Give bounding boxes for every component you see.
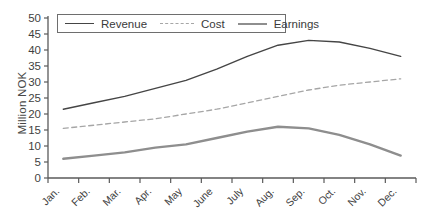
legend-label-revenue: Revenue [101, 18, 147, 30]
x-axis-month-label: Feb. [69, 185, 92, 208]
revenue-line-swatch-icon [65, 23, 94, 24]
y-axis-tick-label: 5 [35, 156, 41, 168]
y-axis-tick-label: 30 [28, 76, 41, 88]
legend-item-earnings: Earnings [225, 18, 319, 30]
y-axis-tick-label: 40 [28, 44, 41, 56]
y-axis-tick-label: 35 [28, 60, 41, 72]
x-axis-month-label: Mar. [100, 185, 123, 208]
legend-label-cost: Cost [201, 18, 225, 30]
x-axis-month-label: Apr. [132, 185, 154, 207]
y-axis-title: Million NOK [16, 72, 28, 135]
x-axis-month-label: Nov. [345, 185, 368, 208]
x-axis-month-label: May [162, 184, 185, 207]
x-axis-month-label: Dec. [375, 185, 399, 209]
line-chart-plot-area: 05101520253035404550Jan.Feb.Mar.Apr.MayJ… [0, 0, 431, 221]
y-axis-tick-label: 25 [28, 92, 41, 104]
y-axis-tick-label: 10 [28, 140, 41, 152]
x-axis-month-label: June [190, 185, 215, 210]
earnings-line-swatch-icon [238, 23, 267, 25]
x-axis-month-label: Aug. [252, 185, 276, 209]
y-axis-tick-label: 20 [28, 108, 41, 120]
legend-item-revenue: Revenue [65, 18, 147, 30]
x-axis-month-label: July [224, 184, 246, 206]
line-chart-figure: 05101520253035404550Jan.Feb.Mar.Apr.MayJ… [0, 0, 431, 221]
revenue-series-line [63, 40, 400, 109]
y-axis-tick-label: 45 [28, 28, 41, 40]
x-axis-month-label: Oct. [315, 185, 337, 207]
legend-label-earnings: Earnings [274, 18, 319, 30]
y-axis-tick-label: 0 [35, 172, 41, 184]
y-axis-tick-label: 50 [28, 12, 41, 24]
chart-legend: Revenue Cost Earnings [57, 14, 286, 33]
cost-series-line [63, 79, 400, 129]
x-axis-month-label: Jan. [39, 185, 62, 208]
legend-item-cost: Cost [147, 18, 225, 30]
y-axis-tick-label: 15 [28, 124, 41, 136]
cost-line-swatch-icon [160, 23, 194, 24]
x-axis-month-label: Sep. [283, 185, 307, 209]
earnings-series-line [63, 127, 400, 159]
